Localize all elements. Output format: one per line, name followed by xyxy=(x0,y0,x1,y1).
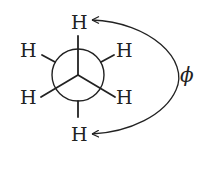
atom-front-lower-right: H xyxy=(116,86,133,108)
atom-back-upper-right: H xyxy=(116,39,133,61)
newman-projection-diagram: H H H H H H ϕ xyxy=(0,0,203,177)
front-bonds xyxy=(41,36,115,97)
dihedral-angle-label: ϕ xyxy=(180,63,194,87)
dihedral-angle-arc xyxy=(92,20,179,134)
atom-back-bottom: H xyxy=(71,123,88,145)
atom-back-upper-left: H xyxy=(20,39,37,61)
atom-front-lower-left: H xyxy=(20,86,37,108)
atom-front-top: H xyxy=(71,11,88,33)
